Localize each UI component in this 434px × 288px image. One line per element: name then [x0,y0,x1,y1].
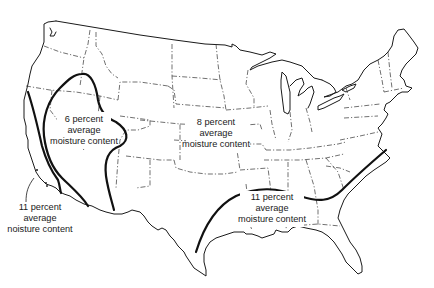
label-line-1: 11 percent [251,192,294,202]
region-label-11-percent-pacific: 11 percent average noisture content [7,178,73,234]
label-line-3: moisture content [238,214,306,224]
region-label-11-percent-southeast: 11 percent average moisture content [238,191,306,227]
island [46,185,48,187]
label-line-2: average [23,213,56,223]
label-line-2: average [255,203,288,213]
label-line-2: average [67,125,100,135]
label-line-1: 11 percent [19,202,62,212]
label-line-3: noisture content [7,224,73,234]
island [36,169,38,171]
lake-huron-shore [290,78,314,108]
label-line-3: moisture content [50,136,118,146]
puget-sound [50,28,56,36]
lake-michigan [281,72,290,114]
us-moisture-content-map: 6 percent average moisture content 8 per… [0,0,434,288]
label-line-1: 6 percent [65,114,104,124]
northern-border [56,21,322,80]
label-line-1: 8 percent [197,117,236,127]
label-line-2: average [199,128,232,138]
lake-erie [318,94,344,110]
island [45,182,47,184]
label-leader-line [26,178,34,202]
region-label-8-percent: 8 percent average moisture content [182,116,250,152]
pacific-coast [24,21,60,192]
region-label-6-percent: 6 percent average moisture content [50,112,118,148]
label-line-3: moisture content [182,139,250,149]
northeast-border [322,29,418,97]
